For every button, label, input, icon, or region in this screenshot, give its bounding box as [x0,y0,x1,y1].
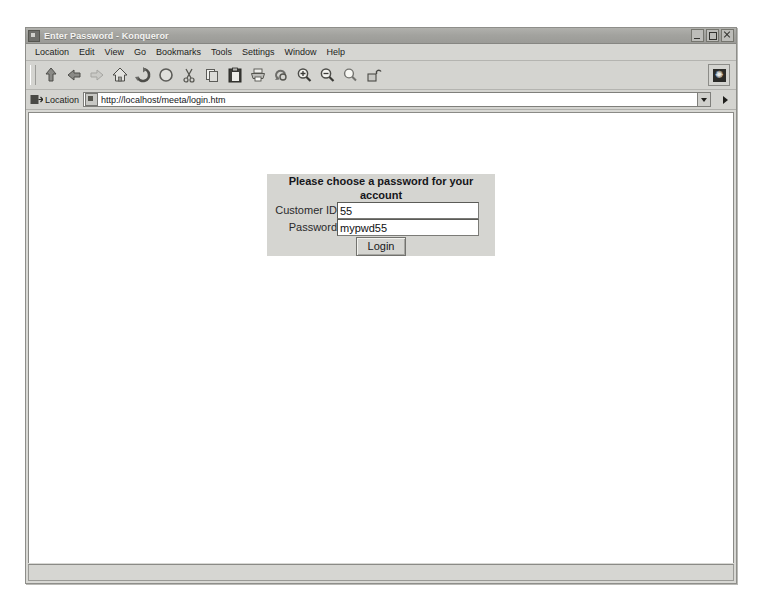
location-bar: Location http://localhost/meeta/login.ht… [26,90,736,110]
print-icon[interactable] [247,64,269,86]
menu-item-window[interactable]: Window [279,46,321,58]
location-label: Location [45,95,79,105]
find-icon[interactable] [339,64,361,86]
customer-id-input[interactable]: 55 [337,202,479,219]
password-input[interactable]: mypwd55 [337,219,479,236]
toolbar-grip[interactable] [30,65,36,85]
submit-row: Login [267,236,495,256]
go-button[interactable] [717,92,733,107]
cut-icon[interactable] [178,64,200,86]
zoom-out-icon[interactable] [316,64,338,86]
menu-item-location[interactable]: Location [30,46,74,58]
go-arrow-icon [723,96,728,104]
menu-item-edit[interactable]: Edit [74,46,100,58]
browser-window: Enter Password - Konqueror Location Edit… [25,27,737,584]
title-bar[interactable]: Enter Password - Konqueror [26,28,736,44]
login-button[interactable]: Login [356,237,407,256]
stop-icon[interactable] [155,64,177,86]
up-icon[interactable] [40,64,62,86]
minimize-button[interactable] [691,29,704,42]
forward-icon[interactable] [86,64,108,86]
maximize-button[interactable] [706,29,719,42]
menu-item-settings[interactable]: Settings [237,46,280,58]
unlocked-padlock-icon[interactable] [362,64,384,86]
main-toolbar: ✺ [26,61,736,90]
menu-item-help[interactable]: Help [322,46,351,58]
form-heading: Please choose a password for your accoun… [267,174,495,202]
password-label: Password [267,219,337,236]
password-row: Password mypwd55 [267,219,495,236]
window-controls [691,29,734,42]
form-heading-row: Please choose a password for your accoun… [267,174,495,202]
customer-id-cell: 55 [337,202,495,219]
page-viewport: Please choose a password for your accoun… [28,112,734,563]
paste-icon[interactable] [224,64,246,86]
menu-item-view[interactable]: View [100,46,129,58]
submit-cell: Login [267,236,495,256]
window-title: Enter Password - Konqueror [44,31,169,41]
status-bar [28,564,734,581]
page-favicon-icon [85,93,98,106]
back-icon[interactable] [63,64,85,86]
konqueror-icon [28,30,40,42]
menu-item-tools[interactable]: Tools [206,46,237,58]
home-icon[interactable] [109,64,131,86]
menu-item-bookmarks[interactable]: Bookmarks [151,46,206,58]
menu-bar: Location Edit View Go Bookmarks Tools Se… [26,44,736,61]
find-file-icon[interactable] [270,64,292,86]
reload-icon[interactable] [132,64,154,86]
url-text: http://localhost/meeta/login.htm [101,95,226,105]
chevron-down-icon [701,98,707,102]
login-form: Please choose a password for your accoun… [267,174,495,256]
customer-id-label: Customer ID [267,202,337,219]
close-button[interactable] [721,29,734,42]
screen: Enter Password - Konqueror Location Edit… [0,0,762,612]
clear-location-icon[interactable] [29,93,43,106]
customer-id-row: Customer ID 55 [267,202,495,219]
password-cell: mypwd55 [337,219,495,236]
url-history-dropdown[interactable] [697,92,711,107]
copy-icon[interactable] [201,64,223,86]
url-input[interactable]: http://localhost/meeta/login.htm [83,92,697,107]
menu-item-go[interactable]: Go [129,46,151,58]
zoom-in-icon[interactable] [293,64,315,86]
konqueror-throbber-icon[interactable]: ✺ [708,64,730,86]
